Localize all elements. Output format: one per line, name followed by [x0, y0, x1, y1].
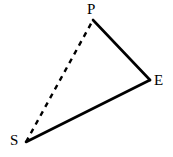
edge-s-p-dashed: [26, 20, 93, 142]
edge-s-e: [26, 80, 150, 142]
vertex-label-p: P: [87, 2, 95, 17]
triangle-diagram: [0, 0, 173, 157]
vertex-label-e: E: [154, 73, 163, 88]
vertex-label-s: S: [10, 133, 18, 148]
geometry-figure: P E S: [0, 0, 173, 157]
edge-p-e: [93, 20, 150, 80]
